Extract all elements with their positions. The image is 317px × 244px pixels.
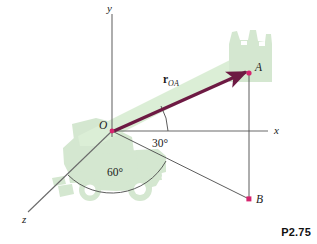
point-label-A: A <box>254 61 263 73</box>
figure-caption: P2.75 <box>281 226 311 238</box>
point-marker-B <box>246 196 251 201</box>
vector-diagram: y x z 30° 60° rOA O A B <box>0 0 317 244</box>
vector-label: rOA <box>163 73 179 88</box>
vector-OA-arrow <box>114 72 246 131</box>
boom-silhouette <box>78 55 252 146</box>
vector-subscript: OA <box>168 79 179 88</box>
z-axis-label: z <box>21 213 27 225</box>
point-label-O: O <box>99 119 108 131</box>
y-axis-label: y <box>106 2 112 14</box>
figure-container: y x z 30° 60° rOA O A B P2.75 <box>0 0 317 244</box>
point-label-B: B <box>256 193 263 205</box>
point-marker-A <box>246 70 251 75</box>
x-axis-label: x <box>273 124 279 136</box>
angle-label-30: 30° <box>152 137 169 149</box>
angle-label-60: 60° <box>107 166 124 178</box>
point-marker-O <box>110 129 115 134</box>
